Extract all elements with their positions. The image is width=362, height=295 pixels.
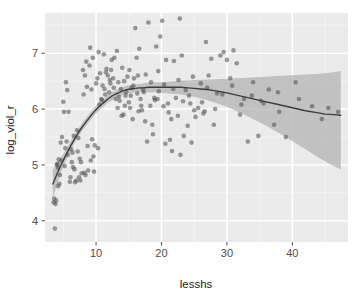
y-tick-label: 4 — [32, 215, 38, 227]
x-tick-label: 40 — [286, 247, 298, 259]
x-tick-label: 30 — [221, 247, 233, 259]
x-tick-label: 20 — [155, 247, 167, 259]
y-axis-title: log_viol_r — [4, 105, 16, 154]
y-tick-label: 7 — [32, 47, 38, 59]
y-tick-label: 6 — [32, 103, 38, 115]
x-tick-label: 10 — [90, 247, 102, 259]
y-tick-label: 5 — [32, 159, 38, 171]
scatter-plot-svg: 10203040 4567 lesshs log_viol_r — [0, 0, 362, 295]
x-axis-title: lesshs — [180, 278, 213, 290]
chart-container: 10203040 4567 lesshs log_viol_r — [0, 0, 362, 295]
